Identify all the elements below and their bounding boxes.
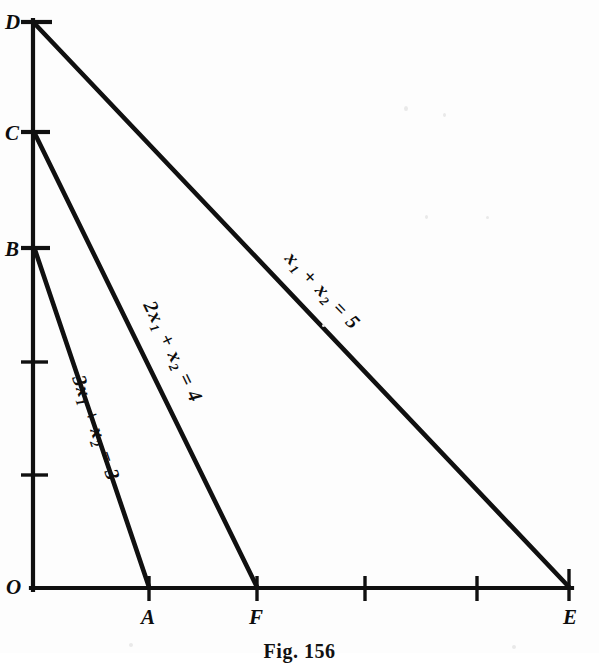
annotation-x1-x2-5: x1 + x2 = 5	[278, 246, 365, 336]
svg-text:x1 + x2 = 5: x1 + x2 = 5	[278, 246, 365, 336]
label-point-E: E	[562, 605, 577, 629]
annotation-2x1-x2-4: 2x1 + x2 = 4	[136, 296, 207, 407]
scan-speck	[512, 645, 516, 649]
scan-speck	[404, 106, 408, 111]
svg-text:3x1 + x2 = 3: 3x1 + x2 = 3	[65, 371, 125, 484]
figure-caption: Fig. 156	[0, 640, 599, 663]
scan-speck	[486, 216, 489, 219]
label-point-F: F	[248, 605, 263, 629]
scan-speck	[425, 215, 428, 219]
scan-speck	[129, 643, 133, 647]
line-2x1-x2-4	[35, 134, 257, 587]
scan-speck	[443, 113, 446, 117]
label-point-D: D	[4, 10, 20, 34]
svg-text:2x1 + x2 = 4: 2x1 + x2 = 4	[136, 296, 207, 407]
label-point-B: B	[4, 237, 19, 261]
label-origin: O	[6, 575, 21, 599]
label-point-C: C	[5, 121, 20, 145]
scan-speck	[322, 324, 325, 327]
label-point-A: A	[139, 605, 155, 629]
annotation-3x1-x2-3: 3x1 + x2 = 3	[65, 371, 125, 484]
line-x1-x2-5	[35, 24, 569, 587]
